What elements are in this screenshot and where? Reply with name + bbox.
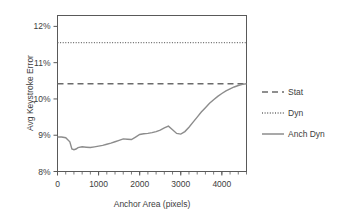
legend-label-dyn: Dyn [288, 108, 303, 118]
y-tick-label: 8% [38, 167, 51, 177]
chart-canvas: 8%9%10%11%12% 01000200030004000 Avg Keys… [0, 0, 340, 218]
x-tick-label: 0 [55, 179, 60, 189]
legend-label-stat: Stat [288, 87, 304, 97]
x-tick-label: 3000 [171, 179, 190, 189]
y-axis-title: Avg Keystroke Error [25, 55, 35, 131]
x-tick-label: 4000 [212, 179, 231, 189]
y-tick-label: 11% [34, 58, 51, 68]
x-tick-label: 1000 [89, 179, 108, 189]
chart-figure: 8%9%10%11%12% 01000200030004000 Avg Keys… [0, 0, 340, 218]
x-tick-label: 2000 [130, 179, 149, 189]
y-tick-label: 9% [38, 130, 51, 140]
x-axis-title: Anchor Area (pixels) [114, 199, 191, 209]
y-tick-label: 12% [33, 21, 50, 31]
y-tick-label: 10% [33, 94, 50, 104]
legend-label-anch-dyn: Anch Dyn [288, 129, 325, 139]
